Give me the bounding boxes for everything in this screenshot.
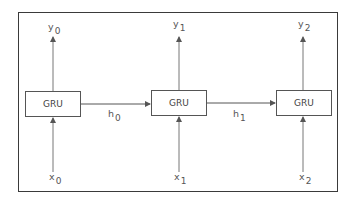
hidden-label-h1: h1 bbox=[233, 109, 246, 123]
gru-cell-2: GRU bbox=[276, 90, 332, 116]
hidden-label-h0: h0 bbox=[108, 109, 121, 123]
output-label-y0: y0 bbox=[48, 22, 60, 36]
output-label-y1: y1 bbox=[173, 19, 185, 33]
input-label-x0: x0 bbox=[49, 172, 61, 186]
gru-label: GRU bbox=[43, 99, 63, 109]
input-label-x2: x2 bbox=[299, 172, 311, 186]
gru-cell-1: GRU bbox=[151, 90, 207, 116]
input-label-x1: x1 bbox=[174, 172, 186, 186]
gru-label: GRU bbox=[294, 98, 314, 108]
gru-label: GRU bbox=[169, 98, 189, 108]
output-label-y2: y2 bbox=[298, 19, 310, 33]
gru-cell-0: GRU bbox=[25, 91, 81, 117]
